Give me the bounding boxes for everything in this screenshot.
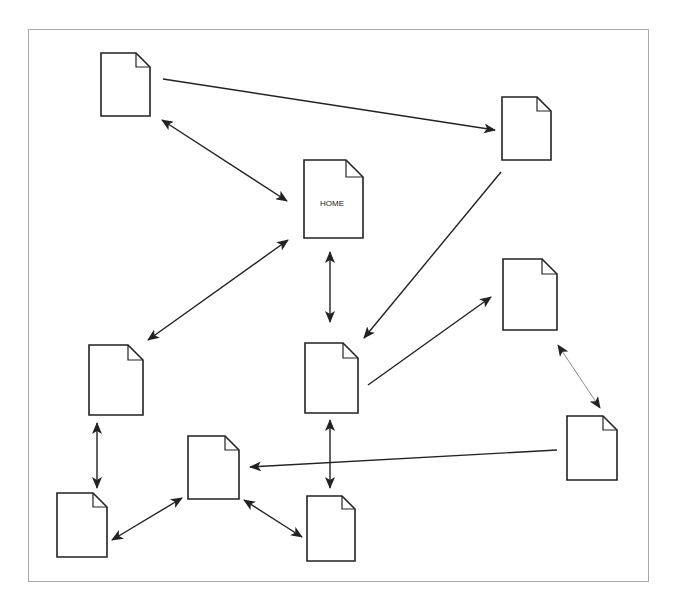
document-icon [503, 259, 557, 330]
link-arrow-p1-p2 [163, 79, 495, 130]
document-icon [307, 496, 355, 561]
document-icon [567, 416, 617, 480]
link-arrow-p2-p6 [364, 172, 501, 338]
page-node [307, 496, 355, 561]
document-icon [57, 493, 107, 557]
page-node [101, 53, 150, 116]
link-arrow-p8-p10 [244, 500, 302, 537]
document-icon [305, 343, 358, 413]
page-node [567, 416, 617, 480]
link-arrow-p4-p7 [558, 345, 600, 408]
document-icon [89, 345, 143, 415]
page-node [57, 493, 107, 557]
document-icon [502, 97, 551, 160]
page-label: HOME [320, 199, 344, 208]
page-node [305, 343, 358, 413]
link-arrow-p7-p8 [250, 450, 557, 467]
pages-layer [57, 53, 617, 561]
link-arrow-p8-p9 [112, 498, 182, 540]
site-map-diagram [0, 0, 676, 605]
document-icon [188, 436, 239, 499]
document-icon [101, 53, 150, 116]
page-node [503, 259, 557, 330]
link-arrow-home-p5 [148, 240, 288, 340]
page-node [188, 436, 239, 499]
page-node [89, 345, 143, 415]
link-arrow-p1-home [162, 120, 287, 201]
page-node [502, 97, 551, 160]
